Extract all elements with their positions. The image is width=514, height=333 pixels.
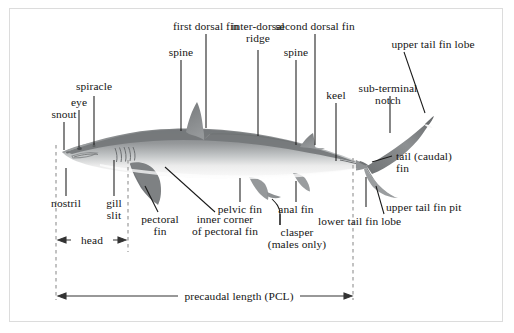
label-lower-tail-fin-lobe: lower tail fin lobe xyxy=(318,215,401,227)
second-dorsal-fin xyxy=(300,133,316,149)
label-nostril: nostril xyxy=(51,197,81,209)
label-snout: snout xyxy=(51,108,76,120)
pelvic-fin xyxy=(249,177,268,200)
label-inner-corner-of-pectoral-fin: inner corner of pectoral fin xyxy=(192,213,258,237)
label-clasper: clasper (males only) xyxy=(268,226,326,250)
label-sub-terminal-notch: sub-terminal notch xyxy=(359,82,418,106)
label-spine-second: spine xyxy=(284,46,309,58)
label-gill-slit: gill slit xyxy=(106,197,122,221)
label-precaudal-length: precaudal length (PCL) xyxy=(184,290,293,302)
label-spiracle: spiracle xyxy=(76,80,112,92)
clasper xyxy=(267,192,281,198)
label-second-dorsal-fin: second dorsal fin xyxy=(275,20,355,32)
shark-eye xyxy=(77,147,82,150)
shark-spiracle xyxy=(92,145,95,147)
label-upper-tail-fin-pit: upper tail fin pit xyxy=(386,201,462,213)
label-anal-fin: anal fin xyxy=(278,203,313,215)
shark-body-group xyxy=(62,102,434,205)
label-eye: eye xyxy=(71,96,87,108)
label-keel: keel xyxy=(326,89,345,101)
shark-nostril xyxy=(66,152,69,154)
label-tail-caudal-fin: tail (caudal) fin xyxy=(396,150,452,174)
label-head-measure: head xyxy=(81,234,103,246)
label-spine-first: spine xyxy=(169,46,194,58)
shark-anatomy-figure: snout eye spiracle nostril gill slit fir… xyxy=(0,0,514,333)
label-first-dorsal-fin: first dorsal fin xyxy=(173,20,239,32)
upper-tail-lobe-tip xyxy=(425,116,434,125)
label-pectoral-fin: pectoral fin xyxy=(141,213,178,237)
label-upper-tail-fin-lobe: upper tail fin lobe xyxy=(391,38,474,50)
label-pelvic-fin: pelvic fin xyxy=(218,203,262,215)
